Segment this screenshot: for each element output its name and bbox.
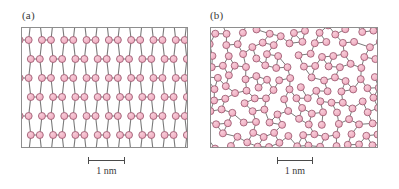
panel-frame-a (21, 27, 188, 148)
panel-frame-b (210, 27, 378, 148)
scalebar-label-b: 1 nm (277, 165, 313, 176)
scalebar-line-b (277, 160, 313, 161)
scalebar-a: 1 nm (88, 157, 125, 176)
scalebar-cap-right-b (312, 157, 313, 164)
scalebar-line-a (88, 160, 125, 161)
scalebar-graphic-b (277, 157, 313, 164)
scalebar-cap-left-b (277, 157, 278, 164)
panel-label-a: (a) (22, 9, 35, 21)
panel-label-b: (b) (210, 9, 223, 21)
scalebar-label-a: 1 nm (88, 165, 125, 176)
scalebar-cap-right-a (124, 157, 125, 164)
scalebar-cap-left-a (88, 157, 89, 164)
scalebar-b: 1 nm (277, 157, 313, 176)
scalebar-graphic-a (88, 157, 125, 164)
figure-root: (a) 1 nm (b) 1 nm (0, 0, 399, 189)
